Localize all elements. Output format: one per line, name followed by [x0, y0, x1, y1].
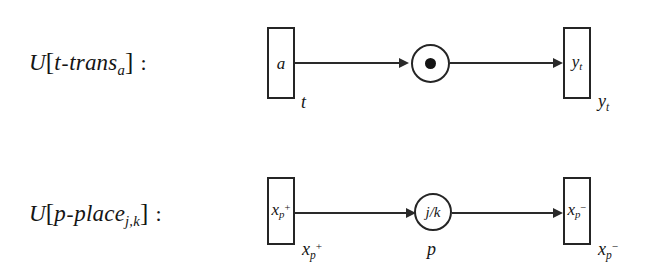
row2-label-close-bracket: ]	[140, 199, 149, 226]
row2-label-prefix: U	[29, 201, 46, 226]
row1-label-colon: :	[134, 50, 147, 75]
row2-target-annot-sup: −	[612, 240, 618, 252]
row1-target-transition-text: yt	[572, 53, 583, 72]
row1-target-text-sub: t	[579, 61, 582, 73]
row1-target-annot-sub: t	[606, 101, 609, 113]
row2-source-transition-text: xp+	[272, 201, 291, 220]
row2-source-annot-base: x	[302, 239, 310, 259]
row2-source-transition-annotation: xp+	[302, 240, 322, 261]
row2-place-text: j/k	[426, 205, 441, 220]
row1-arrowhead-to-place-icon	[399, 58, 409, 68]
row1-source-transition-text: a	[277, 55, 286, 72]
row2-target-transition-annotation: xp−	[598, 240, 618, 261]
row2-target-text-base: x	[568, 200, 576, 219]
row2-target-transition-box: xp−	[563, 177, 591, 245]
row2-arc-place-to-target	[452, 212, 553, 214]
row2-source-transition-box: xp+	[267, 177, 295, 245]
row2-source-text-sup: +	[285, 202, 291, 213]
row1-arc-place-to-target	[450, 62, 553, 64]
row2-target-transition-text: xp−	[568, 201, 587, 220]
petri-net-figure: U[t-transa]: a t yt yt U[p-placej,k]: xp…	[0, 0, 657, 274]
row1-source-transition-box: a	[267, 27, 295, 99]
row1-label-body-a: t	[54, 50, 61, 75]
row2-label-body-b: place	[74, 201, 125, 226]
row-label-t-trans: U[t-transa]:	[29, 49, 147, 77]
row1-source-transition-annotation: t	[301, 93, 306, 111]
row1-label-hyphen: -	[61, 51, 69, 75]
row1-label-body-b: trans	[69, 50, 117, 75]
row2-source-text-base: x	[272, 200, 280, 219]
row1-label-subscript: a	[117, 62, 125, 78]
token-dot-icon	[425, 58, 436, 69]
row2-label-colon: :	[149, 201, 162, 226]
row1-label-prefix: U	[29, 50, 46, 75]
row2-place-annotation: p	[427, 240, 436, 258]
row2-label-body-a: p	[54, 201, 66, 226]
row2-place-circle: j/k	[414, 193, 452, 231]
row2-arrowhead-to-target-icon	[553, 208, 563, 218]
row2-label-subscript: j,k	[125, 213, 140, 229]
row2-target-annot-base: x	[598, 239, 606, 259]
row1-arc-source-to-place	[295, 62, 399, 64]
row1-place-circle	[411, 44, 450, 83]
row2-target-text-sup: −	[581, 202, 587, 213]
row2-source-annot-sup: +	[316, 240, 322, 252]
row1-target-transition-annotation: yt	[598, 92, 609, 113]
row1-arrowhead-to-target-icon	[553, 58, 563, 68]
row2-arc-source-to-place	[295, 212, 406, 214]
row1-target-transition-box: yt	[563, 27, 591, 99]
row1-label-close-bracket: ]	[125, 48, 134, 75]
row-label-p-place: U[p-placej,k]:	[29, 200, 162, 228]
row1-target-annot-base: y	[598, 91, 606, 111]
